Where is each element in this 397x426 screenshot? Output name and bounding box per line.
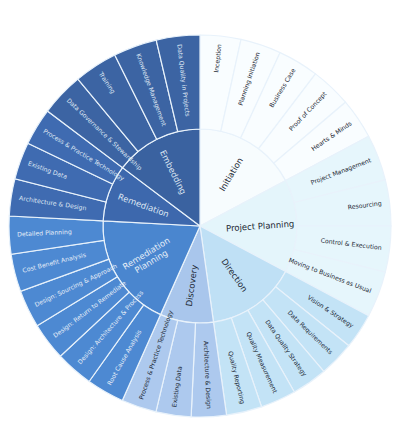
- segment-layer: [9, 35, 391, 417]
- sunburst-diagram: InitiationInceptionPlanning InitiationBu…: [0, 0, 397, 426]
